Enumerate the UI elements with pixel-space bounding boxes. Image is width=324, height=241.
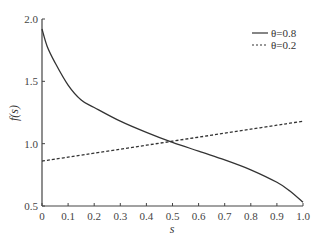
x-tick-label: 0.8 — [244, 210, 258, 222]
x-tick-label: 0.4 — [140, 210, 154, 222]
x-tick-label: 1.0 — [296, 210, 310, 222]
y-tick-label: 1.5 — [24, 75, 38, 87]
axes: 00.10.20.30.40.50.60.70.80.91.00.51.01.5… — [24, 13, 310, 222]
y-tick-label: 0.5 — [24, 200, 38, 212]
x-tick-label: 0.1 — [61, 210, 75, 222]
legend: θ=0.8θ=0.2 — [252, 27, 297, 51]
x-tick-label: 0 — [39, 210, 45, 222]
x-tick-label: 0.6 — [192, 210, 206, 222]
x-tick-label: 0.2 — [87, 210, 101, 222]
x-tick-label: 0.3 — [113, 210, 127, 222]
y-axis-label: f(s) — [7, 105, 21, 121]
y-tick-label: 1.0 — [24, 138, 38, 150]
legend-label: θ=0.8 — [271, 27, 297, 39]
x-tick-label: 0.5 — [166, 210, 180, 222]
chart: 00.10.20.30.40.50.60.70.80.91.00.51.01.5… — [0, 0, 324, 241]
x-tick-label: 0.9 — [270, 210, 284, 222]
x-tick-label: 0.7 — [218, 210, 232, 222]
x-axis-label: s — [170, 222, 175, 236]
y-tick-label: 2.0 — [24, 13, 38, 25]
series-line-solid — [42, 29, 303, 202]
series-line-dashed — [42, 121, 303, 161]
plot-lines — [42, 29, 303, 202]
legend-label: θ=0.2 — [271, 39, 296, 51]
